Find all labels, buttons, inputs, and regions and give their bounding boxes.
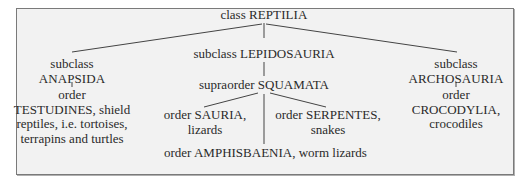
- taxon-name: ARCHOSAURIA: [396, 72, 516, 87]
- taxon-name: REPTILIA: [249, 7, 308, 22]
- node-subclass-lepidosauria: subclass LEPIDOSAURIA: [184, 47, 344, 62]
- node-supraorder-squamata: supraorder SQUAMATA: [184, 78, 344, 93]
- taxon-line: order SERPENTES,: [268, 108, 388, 123]
- rank-label: class: [220, 7, 245, 22]
- node-order-crocodylia: order CROCODYLIA, crocodiles: [396, 88, 516, 132]
- taxon-line: order SAURIA,: [150, 108, 260, 123]
- rank-label: subclass: [2, 57, 142, 72]
- node-order-serpentes: order SERPENTES, snakes: [268, 108, 388, 137]
- rank-label: order: [396, 88, 516, 103]
- node-order-sauria: order SAURIA, lizards: [150, 108, 260, 137]
- taxon-name: ANAPSIDA: [2, 72, 142, 87]
- node-subclass-anapsida: subclass ANAPSIDA: [2, 57, 142, 86]
- node-order-testudines: order TESTUDINES, shield reptiles, i.e. …: [2, 88, 142, 146]
- rank-label: order: [2, 88, 142, 103]
- node-class-reptilia: class REPTILIA: [214, 8, 314, 23]
- taxon-line: TESTUDINES, shield: [2, 103, 142, 118]
- taxon-line: CROCODYLIA,: [396, 103, 516, 118]
- taxon-line: lizards: [150, 123, 260, 138]
- taxon-label: subclass LEPIDOSAURIA: [184, 47, 344, 62]
- node-order-amphisbaenia: order AMPHISBAENIA, worm lizards: [164, 146, 364, 161]
- node-subclass-archosauria: subclass ARCHOSAURIA: [396, 57, 516, 86]
- taxon-label: order AMPHISBAENIA, worm lizards: [164, 146, 364, 161]
- taxon-label: supraorder SQUAMATA: [184, 78, 344, 93]
- taxon-line: terrapins and turtles: [2, 132, 142, 147]
- taxon-line: crocodiles: [396, 117, 516, 132]
- rank-label: subclass: [396, 57, 516, 72]
- taxon-line: snakes: [268, 123, 388, 138]
- taxon-line: reptiles, i.e. tortoises,: [2, 117, 142, 132]
